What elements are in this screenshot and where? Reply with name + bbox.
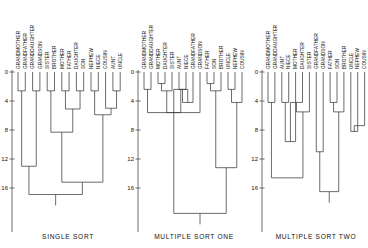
leaf-label: UNCLE bbox=[118, 53, 123, 69]
axis-tick-label: 4 bbox=[131, 98, 135, 104]
dendrogram-link bbox=[76, 72, 83, 91]
leaf-label: SISTER bbox=[307, 51, 312, 69]
dendrogram-link bbox=[62, 72, 69, 91]
leaf-label: SON bbox=[81, 59, 86, 69]
leaf-label: MOTHER bbox=[293, 48, 298, 69]
axis-tick-label: 4 bbox=[5, 98, 9, 104]
y-axis-3: 0481216 bbox=[251, 69, 264, 232]
leaf-label: GRANDMOTHER bbox=[16, 30, 21, 69]
axis-tick-label: 0 bbox=[5, 69, 9, 75]
panel-caption: MULTIPLE SORT ONE bbox=[154, 233, 234, 240]
leaf-label: GRANDSON bbox=[321, 41, 326, 69]
dendrogram-link bbox=[232, 72, 243, 102]
leaf-label: SISTER bbox=[170, 51, 175, 69]
dendrogram-panel-1: 0481216GRANDMOTHERGRANDFATHERGRANDDAUGHT… bbox=[1, 24, 123, 232]
dendrogram-link bbox=[330, 72, 337, 102]
leaf-label: SISTER bbox=[45, 51, 50, 69]
leaf-label: DAUGHTER bbox=[74, 41, 79, 69]
leaf-label: GRANDFATHER bbox=[191, 32, 196, 69]
leaf-label: COUSIN bbox=[240, 50, 245, 69]
dendrogram-link bbox=[271, 102, 302, 177]
leaf-label: AUNT bbox=[280, 56, 285, 69]
dendrogram-link bbox=[268, 72, 275, 102]
axis-tick-label: 8 bbox=[131, 127, 135, 133]
dendrogram-link bbox=[351, 72, 358, 131]
dendrogram-link bbox=[162, 72, 173, 91]
dendrogram-link bbox=[174, 113, 227, 214]
leaf-label: BROTHER bbox=[219, 45, 224, 69]
leaf-label: NEPHEW bbox=[89, 47, 94, 69]
axis-tick-label: 16 bbox=[127, 185, 134, 191]
dendrogram-panel-2: 0481216GRANDMOTHERGRANDDAUGHTERMOTHERDAU… bbox=[127, 24, 244, 232]
dendrogram-link bbox=[282, 72, 289, 102]
leaf-label: MOTHER bbox=[60, 48, 65, 69]
dendrogram-link bbox=[211, 72, 222, 91]
axis-tick-label: 12 bbox=[1, 156, 8, 162]
leaf-label: NEPHEW bbox=[233, 47, 238, 69]
leaf-label: DAUGHTER bbox=[163, 41, 168, 69]
axis-tick-label: 0 bbox=[255, 69, 259, 75]
leaf-label: GRANDSON bbox=[198, 41, 203, 69]
leaf-label: GRANDMOTHER bbox=[142, 30, 147, 69]
y-axis-2: 0481216 bbox=[127, 69, 140, 232]
dendrogram-link bbox=[144, 72, 151, 89]
dendrogram-link bbox=[33, 72, 40, 91]
dendrogram-link bbox=[316, 72, 323, 152]
dendrogram-link bbox=[29, 166, 82, 194]
axis-tick-label: 16 bbox=[251, 185, 258, 191]
dendrogram-link bbox=[296, 72, 309, 112]
dendrogram-link bbox=[354, 72, 364, 131]
leaf-label: COUSIN bbox=[362, 50, 367, 69]
dendrogram-link bbox=[51, 91, 73, 132]
leaf-label: GRANDSON bbox=[38, 41, 43, 69]
dendrogram-link bbox=[18, 72, 25, 91]
leaf-label: MOTHER bbox=[156, 48, 161, 69]
dendrogram-link bbox=[65, 91, 80, 109]
leaf-label: UNCLE bbox=[349, 53, 354, 69]
dendrogram-link bbox=[228, 72, 235, 89]
axis-tick-label: 12 bbox=[127, 156, 134, 162]
leaf-label: GRANDDAUGHTER bbox=[149, 24, 154, 69]
axis-tick-label: 8 bbox=[255, 127, 259, 133]
axis-tick-label: 4 bbox=[255, 98, 259, 104]
panel-caption: SINGLE SORT bbox=[42, 233, 94, 240]
leaf-label: UNCLE bbox=[226, 53, 231, 69]
leaf-label: GRANDFATHER bbox=[23, 32, 28, 69]
dendrogram-link bbox=[91, 72, 98, 91]
dendrogram-link bbox=[113, 72, 120, 91]
leaf-label: SON bbox=[335, 59, 340, 69]
dendrogram-link bbox=[158, 72, 165, 84]
leaf-label: BROTHER bbox=[342, 45, 347, 69]
axis-tick-label: 0 bbox=[131, 69, 135, 75]
axis-tick-label: 16 bbox=[1, 185, 8, 191]
dendrogram-svg: 0481216GRANDMOTHERGRANDFATHERGRANDDAUGHT… bbox=[0, 0, 368, 248]
leaf-label: FATHER bbox=[328, 50, 333, 69]
leaf-label: GRANDDAUGHTER bbox=[30, 24, 35, 69]
dendrogram-link bbox=[47, 72, 54, 91]
leaf-label: FATHER bbox=[67, 50, 72, 69]
leaf-label: AUNT bbox=[177, 56, 182, 69]
dendrogram-link bbox=[95, 91, 111, 115]
leaf-label: NIECE bbox=[184, 54, 189, 69]
y-axis-1: 0481216 bbox=[1, 69, 14, 232]
axis-tick-label: 8 bbox=[5, 127, 9, 133]
dendrogram-panel-3: 0481216GRANDMOTHERGRANDDAUGHTERAUNTNIECE… bbox=[251, 24, 367, 232]
leaf-label: BROTHER bbox=[52, 45, 57, 69]
leaf-label: GRANDMOTHER bbox=[266, 30, 271, 69]
leaf-label: GRANDFATHER bbox=[314, 32, 319, 69]
panel-caption: MULTIPLE SORT TWO bbox=[276, 233, 357, 240]
dendrogram-figure: 0481216GRANDMOTHERGRANDFATHERGRANDDAUGHT… bbox=[0, 0, 368, 248]
leaf-label: NEPHEW bbox=[355, 47, 360, 69]
dendrogram-link bbox=[22, 91, 37, 166]
leaf-label: SON bbox=[212, 59, 217, 69]
leaf-label: DAUGHTER bbox=[300, 41, 305, 69]
leaf-label: NIECE bbox=[96, 54, 101, 69]
leaf-label: NIECE bbox=[286, 54, 291, 69]
dendrogram-link bbox=[207, 72, 214, 84]
leaf-label: COUSIN bbox=[103, 50, 108, 69]
axis-tick-label: 12 bbox=[251, 156, 258, 162]
dendrogram-link bbox=[106, 72, 117, 108]
dendrogram-link bbox=[179, 72, 186, 89]
dendrogram-link bbox=[62, 115, 103, 182]
leaf-label: FATHER bbox=[205, 50, 210, 69]
